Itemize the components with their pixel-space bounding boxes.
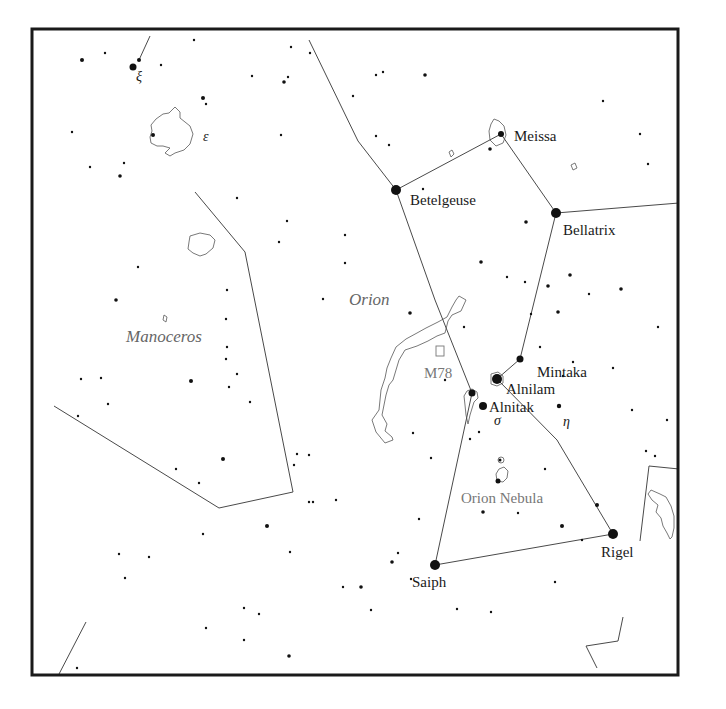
star-dot <box>657 326 659 328</box>
star-dot <box>289 551 291 553</box>
star-dot <box>249 401 251 403</box>
star-dot <box>286 220 288 222</box>
star-dot <box>375 74 377 76</box>
star-dot <box>221 457 225 461</box>
star-dot <box>524 281 526 283</box>
star-dot <box>118 174 122 178</box>
star-dot <box>469 438 471 440</box>
star-dot <box>148 556 150 558</box>
star-dot <box>80 378 82 380</box>
star-dot <box>100 377 102 379</box>
star-dot <box>388 144 390 146</box>
star-dot <box>202 533 204 535</box>
star-dot <box>647 163 649 165</box>
orion-star-chart: Orion Manoceros M78 Orion Nebula Betelge… <box>0 0 726 709</box>
star-dot <box>287 654 291 658</box>
star-dot <box>290 46 292 48</box>
star-rigel <box>608 529 618 539</box>
star-dot <box>654 455 656 457</box>
star-dot <box>572 361 574 363</box>
star-dot <box>560 524 564 528</box>
star-dot <box>631 409 633 411</box>
star-dot <box>251 75 253 77</box>
star-dot <box>225 318 227 320</box>
star-dot <box>418 518 420 520</box>
star-dot <box>236 373 238 375</box>
star-dot <box>308 501 310 503</box>
star-dot <box>478 431 480 433</box>
star-dot <box>546 284 550 288</box>
object-label-m78: M78 <box>424 365 452 381</box>
star-alnitak <box>479 402 487 410</box>
star-meissa <box>498 131 504 137</box>
star-dot <box>463 326 465 328</box>
star-dot <box>71 131 73 133</box>
star-label-meissa: Meissa <box>514 128 557 144</box>
star-dot <box>370 609 372 611</box>
star-saiph <box>430 560 440 570</box>
star-dot <box>226 289 228 291</box>
star-dot <box>309 52 311 54</box>
object-label-orion-nebula: Orion Nebula <box>461 490 543 506</box>
star-dot <box>375 135 377 137</box>
star-dot <box>602 100 604 102</box>
star-dot <box>382 71 384 73</box>
star-dot <box>205 627 207 629</box>
star-dot <box>293 464 295 466</box>
star-dot <box>201 96 205 100</box>
star-dot <box>80 58 84 62</box>
star-dot <box>344 234 346 236</box>
greek-label-sigma: σ <box>494 413 502 428</box>
star-label-bellatrix: Bellatrix <box>563 222 616 238</box>
star-dot <box>89 166 91 168</box>
star-dot <box>539 346 541 348</box>
star-dot <box>581 539 583 541</box>
star-dot <box>544 468 546 470</box>
star-dot <box>412 432 414 434</box>
star-dot <box>312 501 314 503</box>
star-dot <box>243 639 245 641</box>
star-dot <box>287 76 289 78</box>
star-dot <box>488 147 492 151</box>
constellation-label-orion: Orion <box>349 290 390 309</box>
star-dot <box>612 367 614 369</box>
star-dot <box>568 273 572 277</box>
star-dot <box>456 608 458 610</box>
star-dot <box>517 512 519 514</box>
star-dot <box>124 577 126 579</box>
star-dot <box>481 510 485 514</box>
star-dot <box>114 298 118 302</box>
star-dot <box>408 311 412 315</box>
star-dot <box>423 73 427 77</box>
star-betelgeuse <box>391 185 401 195</box>
star-dot <box>469 390 476 397</box>
star-dot <box>236 197 238 199</box>
star-dot <box>430 457 432 459</box>
star-dot <box>499 459 502 462</box>
star-dot <box>123 162 125 164</box>
star-dot <box>397 552 399 554</box>
star-dot <box>619 287 623 291</box>
star-dot <box>205 103 207 105</box>
star-dot <box>104 52 106 54</box>
star-bellatrix <box>551 208 561 218</box>
star-dot <box>557 404 561 408</box>
chart-background <box>0 0 726 709</box>
star-label-rigel: Rigel <box>601 544 634 560</box>
star-dot <box>554 581 556 583</box>
star-dot <box>556 310 560 314</box>
star-dot <box>243 607 245 609</box>
star-label-saiph: Saiph <box>412 574 447 590</box>
star-label-alnilam: Alnilam <box>506 381 555 397</box>
star-dot <box>335 499 337 501</box>
star-label-mintaka: Mintaka <box>537 364 587 380</box>
star-dot <box>137 58 141 62</box>
star-dot <box>506 276 508 278</box>
star-dot <box>639 133 641 135</box>
star-dot <box>228 386 230 388</box>
star-dot <box>308 454 310 456</box>
star-dot <box>666 419 668 421</box>
star-dot <box>258 613 260 615</box>
star-dot <box>280 134 282 136</box>
star-dot <box>422 188 424 190</box>
